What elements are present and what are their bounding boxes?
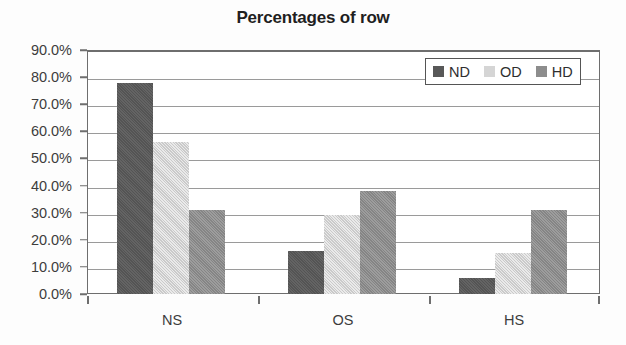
y-axis: 90.0% 80.0% 70.0% 60.0% 50.0% 40.0% 30.0… <box>0 50 80 294</box>
bar-group-hs <box>451 50 599 294</box>
bar-ns-hd[interactable] <box>189 210 225 294</box>
y-tick-mark-60 <box>80 131 87 133</box>
y-tick-label-50: 50.0% <box>31 150 72 166</box>
y-tick-label-0: 0.0% <box>39 286 72 302</box>
y-tick-mark-80 <box>80 76 87 78</box>
bar-os-nd[interactable] <box>288 251 324 294</box>
x-tick-mark-0 <box>87 296 89 304</box>
x-tick-mark-1 <box>258 296 260 304</box>
x-tick-label-ns: NS <box>162 312 182 328</box>
x-tick-mark-2 <box>429 296 431 304</box>
legend-swatch-nd-icon <box>433 66 444 77</box>
y-tick-mark-70 <box>80 103 87 105</box>
legend-item-od[interactable]: OD <box>484 64 522 80</box>
chart-title: Percentages of row <box>0 8 626 28</box>
x-tick-mark-3 <box>598 296 600 304</box>
bar-os-hd[interactable] <box>360 191 396 294</box>
legend-item-hd[interactable]: HD <box>536 64 573 80</box>
bar-ns-nd[interactable] <box>117 83 153 295</box>
x-axis: NS OS HS <box>87 296 600 336</box>
y-tick-mark-10 <box>80 266 87 268</box>
y-tick-mark-90 <box>80 49 87 51</box>
legend-label-nd: ND <box>449 64 470 80</box>
bar-chart: Percentages of row 90 <box>0 0 626 345</box>
bar-hs-hd[interactable] <box>531 210 567 294</box>
y-tick-label-10: 10.0% <box>31 259 72 275</box>
legend-swatch-hd-icon <box>536 66 547 77</box>
y-tick-label-30: 30.0% <box>31 205 72 221</box>
y-tick-label-90: 90.0% <box>31 42 72 58</box>
legend-label-od: OD <box>500 64 522 80</box>
bar-ns-od[interactable] <box>153 142 189 294</box>
y-tick-mark-30 <box>80 212 87 214</box>
legend-label-hd: HD <box>552 64 573 80</box>
y-tick-mark-0 <box>80 293 87 295</box>
bar-hs-od[interactable] <box>495 253 531 294</box>
bar-group-os <box>280 50 428 294</box>
bars-layer <box>87 50 600 294</box>
bar-os-od[interactable] <box>324 215 360 294</box>
legend-item-nd[interactable]: ND <box>433 64 470 80</box>
y-tick-label-60: 60.0% <box>31 123 72 139</box>
bar-hs-nd[interactable] <box>459 278 495 294</box>
bar-group-ns <box>109 50 257 294</box>
y-tick-mark-20 <box>80 239 87 241</box>
y-tick-label-80: 80.0% <box>31 69 72 85</box>
chart-legend: ND OD HD <box>425 58 581 85</box>
y-tick-mark-40 <box>80 185 87 187</box>
y-tick-mark-50 <box>80 158 87 160</box>
y-tick-label-20: 20.0% <box>31 232 72 248</box>
y-tick-label-70: 70.0% <box>31 96 72 112</box>
y-tick-label-40: 40.0% <box>31 178 72 194</box>
x-tick-label-os: OS <box>333 312 354 328</box>
x-tick-label-hs: HS <box>504 312 524 328</box>
legend-swatch-od-icon <box>484 66 495 77</box>
